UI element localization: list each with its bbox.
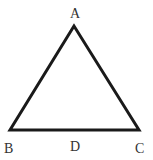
label-b: B [4, 141, 13, 156]
label-a: A [70, 6, 81, 21]
triangle-diagram: A B D C [0, 0, 153, 160]
triangle-abc [10, 26, 139, 130]
label-d: D [70, 139, 80, 154]
label-c: C [135, 141, 144, 156]
